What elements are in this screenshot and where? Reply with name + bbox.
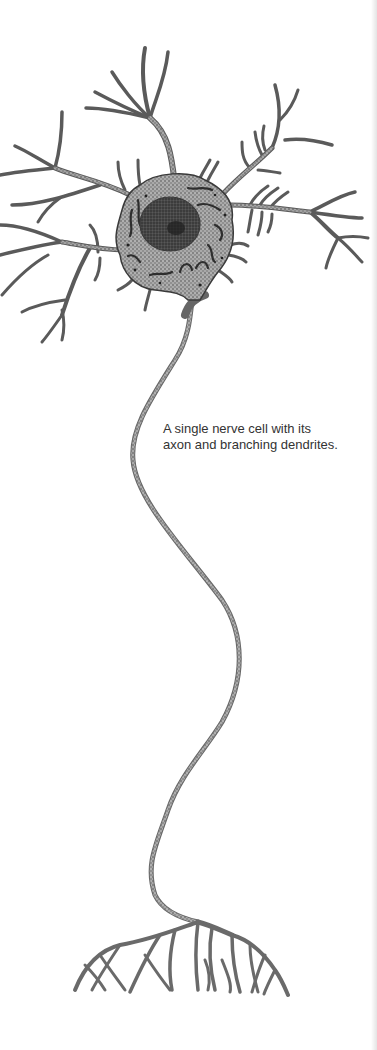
- axon-terminals: [75, 922, 288, 995]
- neuron-illustration: [0, 0, 377, 1050]
- axon: [133, 300, 240, 922]
- caption-line-2: axon and branching dendrites.: [163, 437, 373, 453]
- figure-caption: A single nerve cell with its axon and br…: [163, 421, 373, 453]
- caption-line-1: A single nerve cell with its: [163, 421, 373, 437]
- nucleolus: [167, 221, 185, 235]
